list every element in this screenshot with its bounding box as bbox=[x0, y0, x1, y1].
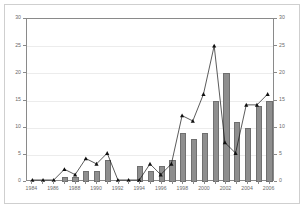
x-axis-tick-label: 1990 bbox=[86, 186, 106, 191]
x-axis-tick-mark bbox=[247, 181, 248, 184]
x-axis-tick-label: 2004 bbox=[237, 186, 257, 191]
y-axis-left-tick-mark bbox=[23, 72, 26, 73]
x-axis-tick-mark bbox=[225, 181, 226, 184]
young-data-marker bbox=[191, 119, 195, 123]
x-axis-tick-mark bbox=[172, 181, 173, 184]
x-axis-tick-mark bbox=[107, 181, 108, 184]
chart-figure: Pairs Young 051015202530 051015202530 19… bbox=[0, 0, 305, 215]
y-axis-left-tick-label: 10 bbox=[7, 124, 21, 129]
young-data-marker bbox=[180, 114, 184, 118]
y-axis-right-tick-label: 25 bbox=[279, 43, 293, 48]
y-axis-left-tick-label: 5 bbox=[7, 151, 21, 156]
x-axis-tick-label: 2006 bbox=[259, 186, 279, 191]
x-axis-tick-mark bbox=[150, 181, 151, 184]
x-axis-tick-mark bbox=[236, 181, 237, 184]
y-axis-left-tick-label: 15 bbox=[7, 97, 21, 102]
young-data-marker bbox=[62, 167, 66, 171]
x-axis-tick-mark bbox=[31, 181, 32, 184]
x-axis-tick-label: 1996 bbox=[151, 186, 171, 191]
x-axis-tick-label: 2000 bbox=[194, 186, 214, 191]
x-axis-tick-mark bbox=[75, 181, 76, 184]
young-line-path bbox=[32, 46, 267, 180]
y-axis-left-tick-mark bbox=[23, 18, 26, 19]
y-axis-left-tick-mark bbox=[23, 45, 26, 46]
x-axis-tick-label: 1984 bbox=[21, 186, 41, 191]
y-axis-left-tick-mark bbox=[23, 181, 26, 182]
y-axis-right-tick-mark bbox=[274, 127, 277, 128]
x-axis-tick-mark bbox=[139, 181, 140, 184]
x-axis-tick-label: 1998 bbox=[172, 186, 192, 191]
x-axis-tick-mark bbox=[64, 181, 65, 184]
x-axis-tick-label: 1994 bbox=[129, 186, 149, 191]
y-axis-left-tick-label: 0 bbox=[7, 178, 21, 183]
y-axis-right-tick-mark bbox=[274, 100, 277, 101]
y-axis-left-tick-label: 30 bbox=[7, 15, 21, 20]
x-axis-tick-label: 1988 bbox=[65, 186, 85, 191]
y-axis-right-tick-label: 0 bbox=[279, 178, 293, 183]
y-axis-right-tick-mark bbox=[274, 18, 277, 19]
x-axis-tick-mark bbox=[53, 181, 54, 184]
y-axis-right-tick-label: 20 bbox=[279, 70, 293, 75]
x-axis-tick-mark bbox=[128, 181, 129, 184]
x-axis-tick-mark bbox=[161, 181, 162, 184]
line-series-young bbox=[27, 19, 273, 180]
x-axis-tick-mark bbox=[118, 181, 119, 184]
y-axis-right-tick-mark bbox=[274, 181, 277, 182]
y-axis-left-tick-mark bbox=[23, 154, 26, 155]
young-data-marker bbox=[266, 92, 270, 96]
x-axis-tick-label: 1992 bbox=[108, 186, 128, 191]
y-axis-right-tick-mark bbox=[274, 45, 277, 46]
y-axis-left-tick-label: 20 bbox=[7, 70, 21, 75]
y-axis-right-tick-mark bbox=[274, 154, 277, 155]
y-axis-right-tick-label: 30 bbox=[279, 15, 293, 20]
young-data-marker bbox=[223, 140, 227, 144]
x-axis-tick-mark bbox=[42, 181, 43, 184]
young-data-marker bbox=[105, 151, 109, 155]
y-axis-right-tick-label: 5 bbox=[279, 151, 293, 156]
x-axis-tick-mark bbox=[215, 181, 216, 184]
x-axis-tick-mark bbox=[182, 181, 183, 184]
y-axis-left-tick-mark bbox=[23, 127, 26, 128]
x-axis-tick-label: 1986 bbox=[43, 186, 63, 191]
young-data-marker bbox=[148, 162, 152, 166]
y-axis-right-tick-label: 10 bbox=[279, 124, 293, 129]
y-axis-left-tick-label: 25 bbox=[7, 43, 21, 48]
x-axis-tick-mark bbox=[204, 181, 205, 184]
y-axis-right-tick-mark bbox=[274, 72, 277, 73]
young-data-marker bbox=[212, 44, 216, 48]
x-axis-tick-mark bbox=[85, 181, 86, 184]
x-axis-tick-mark bbox=[193, 181, 194, 184]
young-data-marker bbox=[84, 156, 88, 160]
x-axis-tick-label: 2002 bbox=[215, 186, 235, 191]
y-axis-right-tick-label: 15 bbox=[279, 97, 293, 102]
y-axis-left-tick-mark bbox=[23, 100, 26, 101]
x-axis-tick-mark bbox=[96, 181, 97, 184]
plot-area bbox=[26, 18, 274, 181]
young-data-marker bbox=[73, 173, 77, 177]
young-data-marker bbox=[169, 162, 173, 166]
young-data-marker bbox=[201, 92, 205, 96]
x-axis-tick-mark bbox=[269, 181, 270, 184]
x-axis-tick-mark bbox=[258, 181, 259, 184]
